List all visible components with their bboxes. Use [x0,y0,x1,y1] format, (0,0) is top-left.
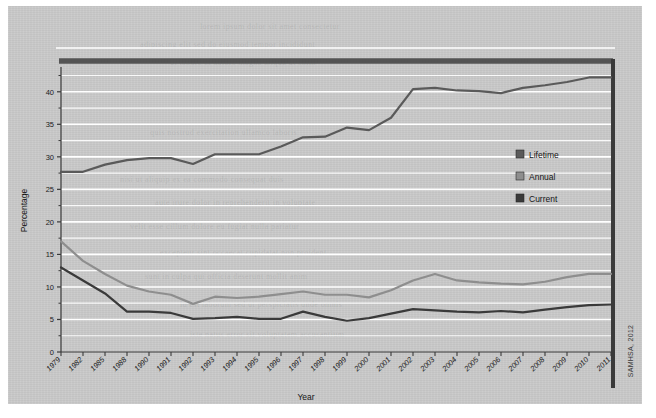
legend: LifetimeAnnualCurrent [516,150,559,204]
x-tick-label: 1998 [308,354,327,373]
x-tick-label: 2005 [462,354,481,373]
x-tick-label: 1979 [44,354,63,373]
x-tick-label: 2002 [396,354,415,373]
y-tick-label: 30 [46,153,54,162]
x-tick-label: 2007 [506,354,525,373]
x-tick-label: 2009 [550,354,569,373]
x-tick-label: 1988 [110,354,129,373]
x-tick-label: 2004 [440,355,459,374]
x-tick-label: 1992 [176,354,195,373]
source-note-text: SAMHSA, 2012 [627,325,634,378]
y-tick-label: 40 [46,88,54,97]
series-line-annual [61,241,611,303]
x-tick-label: 2000 [352,354,371,373]
source-note: SAMHSA, 2012 [627,325,634,378]
gridlines [56,48,615,336]
x-tick-label: 2006 [484,354,503,373]
legend-label-lifetime: Lifetime [529,150,559,160]
y-tick-label: 5 [50,315,54,324]
legend-label-annual: Annual [529,172,556,182]
legend-swatch-current [516,194,524,202]
y-tick-label: 20 [46,218,54,227]
y-tick-label: 10 [46,283,54,292]
x-axis-title: Year [297,392,314,402]
x-tick-label: 1995 [242,354,261,373]
y-tick-label: 0 [50,348,54,357]
chart-svg: 0510152025303540197919821985198819901991… [8,6,642,404]
x-tick-label: 2011 [594,355,612,373]
x-tick-label: 1985 [88,354,107,373]
x-tick-label: 1994 [220,355,238,373]
y-tick-label: 35 [46,120,54,129]
legend-swatch-lifetime [516,150,524,158]
x-tick-label: 1999 [330,354,349,373]
x-tick-label: 1990 [132,354,151,373]
x-tick-label: 2003 [418,354,437,373]
y-tick-label: 25 [46,185,54,194]
x-tick-label: 2008 [528,354,547,373]
x-tick-label: 1997 [286,354,305,373]
figure-container: lorem ipsum dolor sit amet consectetur a… [0,0,656,418]
legend-swatch-annual [516,172,524,180]
legend-label-current: Current [529,194,558,204]
x-tick-label: 2001 [374,355,393,374]
y-axis-title: Percentage [19,188,29,232]
x-tick-label: 1991 [154,355,172,373]
y-tick-label: 15 [46,250,54,259]
x-tick-label: 2010 [572,354,591,373]
x-tick-label: 1996 [264,354,283,373]
x-tick-label: 1982 [66,354,85,373]
x-tick-label: 1993 [198,354,217,373]
